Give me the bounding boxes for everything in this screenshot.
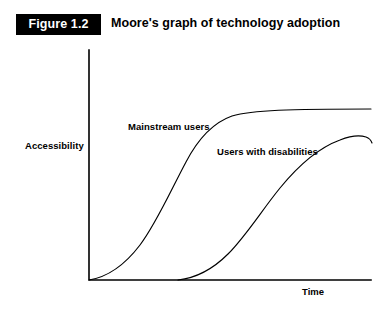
chart-plot-area: Accessibility Time Mainstream users User…	[0, 40, 387, 315]
figure-number-badge: Figure 1.2	[16, 14, 101, 35]
chart-axes	[89, 50, 371, 280]
x-axis-label: Time	[302, 286, 324, 297]
curve-users-with-disabilities	[178, 136, 372, 280]
adoption-curves-svg	[0, 40, 387, 315]
figure-number-label: Figure 1.2	[28, 18, 88, 31]
curve-mainstream-users	[89, 109, 371, 280]
figure-caption: Moore's graph of technology adoption	[111, 16, 340, 30]
curve-annotation-users-with-disabilities: Users with disabilities	[217, 146, 318, 157]
figure-container: Figure 1.2 Moore's graph of technology a…	[0, 0, 387, 315]
curve-annotation-mainstream-users: Mainstream users	[128, 121, 210, 132]
y-axis-label: Accessibility	[25, 140, 84, 151]
